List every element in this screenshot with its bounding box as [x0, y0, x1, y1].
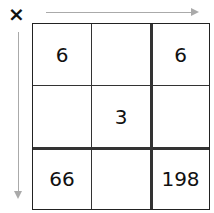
vertical-arrow-icon	[18, 32, 19, 192]
grid-cell	[33, 86, 91, 147]
grid-cell	[92, 24, 150, 85]
grid-cell: 6	[33, 24, 91, 85]
grid-cell: 3	[92, 86, 150, 147]
multiplication-grid: 6 6 3 66 198	[32, 23, 210, 210]
grid-cell	[153, 86, 208, 147]
multiplication-sign: ×	[8, 4, 25, 24]
grid-cell: 66	[33, 150, 91, 208]
grid-cell: 6	[153, 24, 208, 85]
grid-cell	[92, 150, 150, 208]
horizontal-arrow-icon	[46, 12, 192, 13]
grid-cell: 198	[153, 150, 208, 208]
